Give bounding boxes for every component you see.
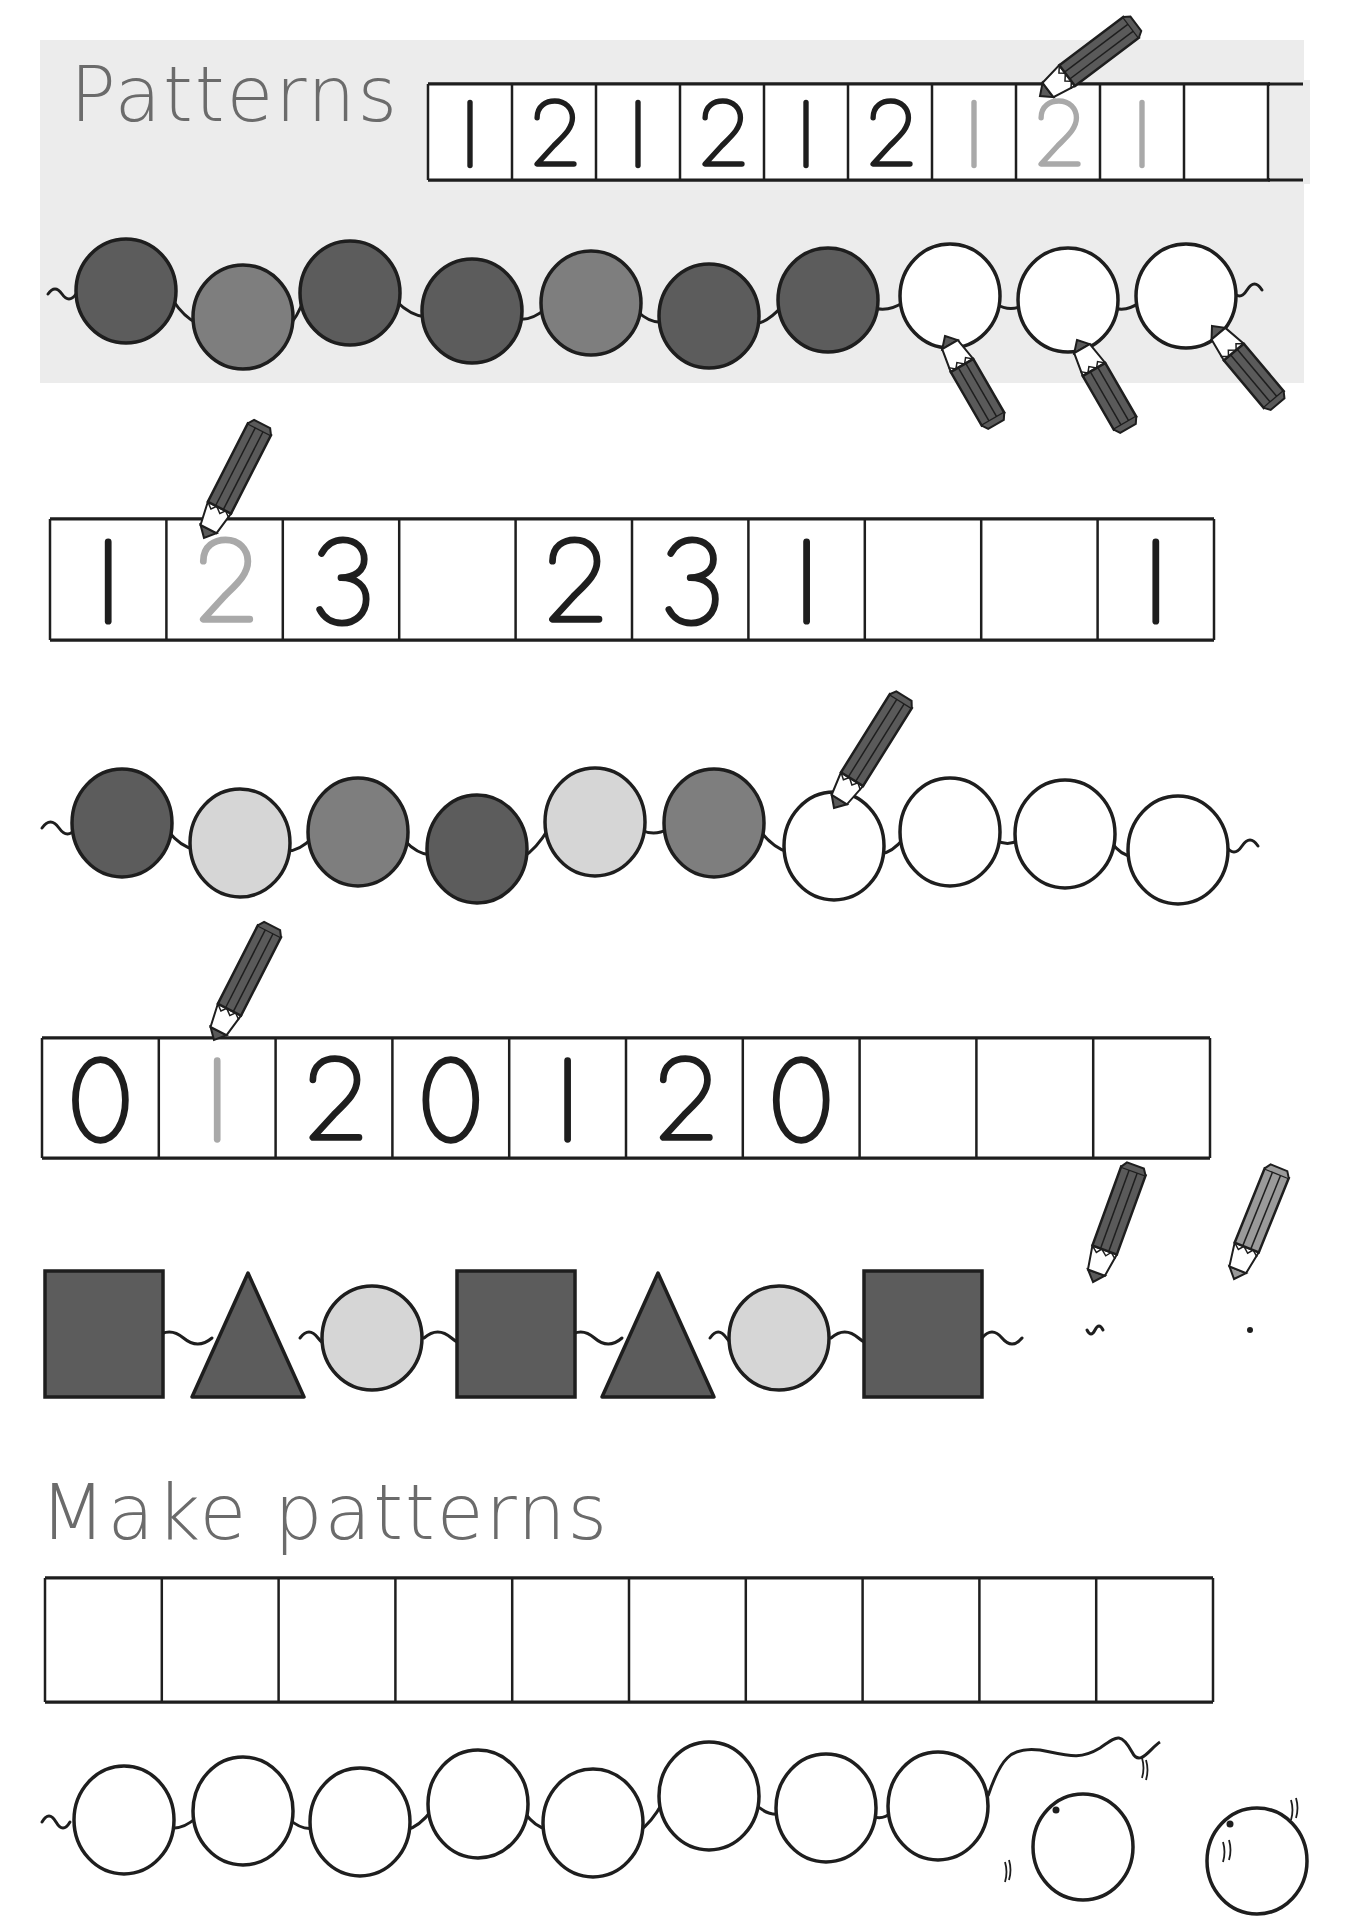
strip-cell[interactable] xyxy=(1184,84,1268,180)
shape-circle xyxy=(729,1286,829,1390)
exercise-shape-string xyxy=(45,1271,1253,1397)
strip-cell[interactable] xyxy=(166,519,282,640)
bead-white[interactable] xyxy=(1018,248,1118,352)
strip-cell[interactable] xyxy=(596,84,680,180)
strip-cell[interactable] xyxy=(50,519,166,640)
make-patterns-bead-string xyxy=(42,1738,1307,1914)
bead-white[interactable] xyxy=(310,1768,410,1876)
strip-cell[interactable] xyxy=(748,519,864,640)
bead-dark xyxy=(422,259,522,363)
strip-cell[interactable] xyxy=(1016,84,1100,180)
strip-cell[interactable] xyxy=(932,84,1016,180)
bead-white[interactable] xyxy=(1015,780,1115,888)
bead-dark xyxy=(427,795,527,903)
falling-bead[interactable] xyxy=(1033,1794,1133,1900)
pencil-icon xyxy=(1202,318,1287,413)
shape-square xyxy=(864,1271,982,1397)
strip-cell[interactable] xyxy=(45,1578,162,1702)
shape-square xyxy=(457,1271,575,1397)
exercise-number-strip-123 xyxy=(50,519,1214,640)
string-icon xyxy=(1226,840,1258,852)
string-icon xyxy=(1087,1326,1103,1334)
worksheet-artwork xyxy=(0,0,1363,1926)
strip-cell[interactable] xyxy=(1096,1578,1213,1702)
strip-cell[interactable] xyxy=(743,1038,860,1158)
worksheet-page: Patterns Make patterns xyxy=(0,0,1363,1926)
bead-white[interactable] xyxy=(74,1766,174,1874)
bead-mid xyxy=(193,265,293,369)
strip-cell[interactable] xyxy=(512,84,596,180)
bead-white[interactable] xyxy=(776,1754,876,1862)
strip-cell[interactable] xyxy=(512,1578,629,1702)
strip-cell[interactable] xyxy=(395,1578,512,1702)
strip-cell[interactable] xyxy=(629,1578,746,1702)
bead-mid xyxy=(541,251,641,355)
bead-white[interactable] xyxy=(193,1757,293,1865)
strip-cell[interactable] xyxy=(981,519,1097,640)
strip-cell[interactable] xyxy=(764,84,848,180)
strip-cell[interactable] xyxy=(979,1578,1096,1702)
strip-cell[interactable] xyxy=(162,1578,279,1702)
bead-white[interactable] xyxy=(900,244,1000,348)
bead-light xyxy=(545,768,645,876)
string-icon xyxy=(982,1332,1022,1344)
strip-cell[interactable] xyxy=(863,1578,980,1702)
strip-cell[interactable] xyxy=(746,1578,863,1702)
bead-mid xyxy=(664,769,764,877)
shape-triangle xyxy=(602,1273,714,1397)
pencil-icon xyxy=(1066,334,1140,435)
bead-white[interactable] xyxy=(1128,796,1228,904)
strip-cell[interactable] xyxy=(860,1038,977,1158)
string-icon xyxy=(42,1816,70,1828)
bead-light xyxy=(190,789,290,897)
pencil-icon xyxy=(1081,1161,1148,1286)
bead-dark xyxy=(72,769,172,877)
strip-cell[interactable] xyxy=(392,1038,509,1158)
strip-cell[interactable] xyxy=(428,84,512,180)
bead-white[interactable] xyxy=(543,1769,643,1877)
strip-cell[interactable] xyxy=(680,84,764,180)
bead-dark xyxy=(659,264,759,368)
bead-dark xyxy=(778,248,878,352)
make-patterns-empty-strip xyxy=(45,1578,1213,1702)
string-icon xyxy=(48,289,76,299)
bead-white[interactable] xyxy=(900,778,1000,886)
strip-cell[interactable] xyxy=(865,519,981,640)
strip-cell[interactable] xyxy=(626,1038,743,1158)
bead-mid xyxy=(308,778,408,886)
strip-cell[interactable] xyxy=(399,519,515,640)
bead-dark xyxy=(300,241,400,345)
bead-white[interactable] xyxy=(428,1750,528,1858)
pencil-icon xyxy=(823,689,915,815)
falling-bead[interactable] xyxy=(1207,1808,1307,1914)
exercise-number-strip-012 xyxy=(42,1038,1210,1158)
pencil-icon xyxy=(1222,1163,1291,1284)
strip-cell[interactable] xyxy=(976,1038,1093,1158)
shape-circle xyxy=(322,1286,422,1390)
strip-cell[interactable] xyxy=(42,1038,159,1158)
strip-cell[interactable] xyxy=(159,1038,276,1158)
bead-white[interactable] xyxy=(888,1752,988,1860)
strip-cell[interactable] xyxy=(279,1578,396,1702)
strip-cell[interactable] xyxy=(632,519,748,640)
strip-cell[interactable] xyxy=(848,84,932,180)
strip-cell[interactable] xyxy=(516,519,632,640)
exercise-bead-string xyxy=(42,768,1258,904)
pencil-icon xyxy=(202,920,283,1046)
strip-cell[interactable] xyxy=(1100,84,1184,180)
shape-square xyxy=(45,1271,163,1397)
strip-cell[interactable] xyxy=(509,1038,626,1158)
bead-white[interactable] xyxy=(659,1742,759,1850)
strip-cell[interactable] xyxy=(276,1038,393,1158)
strip-cell[interactable] xyxy=(1093,1038,1210,1158)
example-number-strip xyxy=(428,80,1310,184)
bead-dark xyxy=(76,239,176,343)
strip-cell[interactable] xyxy=(1098,519,1214,640)
loose-string-icon xyxy=(988,1738,1160,1796)
strip-cell[interactable] xyxy=(283,519,399,640)
shape-triangle xyxy=(192,1273,304,1397)
